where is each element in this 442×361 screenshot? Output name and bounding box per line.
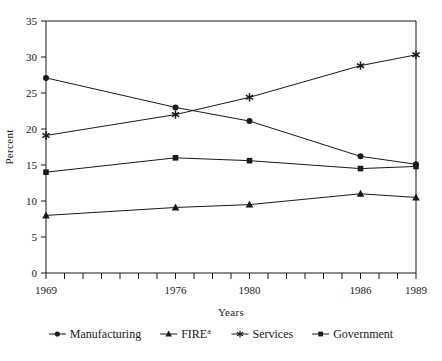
legend-label: Services xyxy=(253,327,294,341)
y-tick-label: 25 xyxy=(26,87,38,99)
y-tick-label: 5 xyxy=(32,231,38,243)
y-tick-label: 0 xyxy=(32,267,38,279)
data-point-circle xyxy=(247,118,253,124)
legend-item-government[interactable]: Government xyxy=(312,327,394,341)
y-tick-label: 20 xyxy=(26,123,38,135)
data-point-circle xyxy=(173,104,179,110)
y-tick-label: 30 xyxy=(26,51,38,63)
x-tick-label: 1989 xyxy=(405,284,428,296)
data-point-square xyxy=(413,164,419,170)
x-tick-label: 1986 xyxy=(350,284,373,296)
x-tick-label: 1969 xyxy=(35,284,58,296)
y-axis-title: Percent xyxy=(3,129,15,164)
x-axis: 19691976198019861989Years xyxy=(35,273,428,318)
legend-item-services[interactable]: Services xyxy=(232,327,294,341)
x-tick-label: 1980 xyxy=(239,284,262,296)
data-point-square xyxy=(358,166,364,172)
y-tick-label: 35 xyxy=(26,15,38,27)
series-line xyxy=(46,194,416,216)
legend-label: Manufacturing xyxy=(70,327,141,341)
legend-superscript: a xyxy=(207,327,211,336)
data-point-square xyxy=(43,169,49,175)
series-fire xyxy=(42,190,420,219)
plot-frame xyxy=(46,21,416,273)
data-point-triangle xyxy=(357,190,365,197)
series-manufacturing xyxy=(43,75,419,167)
legend-item-fire[interactable]: FIREa xyxy=(160,327,211,341)
legend-item-manufacturing[interactable]: Manufacturing xyxy=(49,327,141,341)
data-point-square xyxy=(318,332,323,337)
series-line xyxy=(46,78,416,164)
legend-label: Government xyxy=(333,327,394,341)
data-point-circle xyxy=(358,153,364,159)
data-point-square xyxy=(173,155,179,161)
y-tick-label: 10 xyxy=(26,195,38,207)
data-point-circle xyxy=(55,331,60,336)
legend: ManufacturingFIREaServicesGovernment xyxy=(49,327,394,341)
series-services xyxy=(42,51,419,140)
x-tick-label: 1976 xyxy=(165,284,188,296)
chart-figure: 05101520253035Percent1969197619801986198… xyxy=(0,0,442,361)
line-chart: 05101520253035Percent1969197619801986198… xyxy=(0,0,442,361)
data-point-square xyxy=(247,158,253,164)
data-point-star xyxy=(246,93,253,101)
data-point-circle xyxy=(43,75,49,81)
legend-label: FIREa xyxy=(181,327,211,341)
y-axis: 05101520253035Percent xyxy=(3,15,46,279)
y-tick-label: 15 xyxy=(26,159,38,171)
x-axis-title: Years xyxy=(218,306,244,318)
